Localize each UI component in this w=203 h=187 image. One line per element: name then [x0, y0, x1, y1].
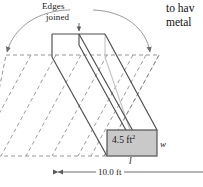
overall-width-dimension-arrow-left — [58, 170, 63, 175]
adjacent-text-line-1: to hav — [166, 2, 194, 14]
figure-vector-graphics — [0, 0, 203, 187]
box-top-edge — [52, 34, 105, 57]
edges-joined-label-line1: Edges — [42, 2, 65, 11]
width-symbol-label: w — [160, 140, 166, 149]
edges-joined-label-line2: joined — [46, 13, 69, 22]
cross-section-area-exponent: 2 — [132, 133, 135, 140]
rolled-metal-sheet-figure: Edges joined 4.5 ft2 w l 10.0 ft to hav … — [0, 0, 203, 187]
adjacent-text-line-2: metal — [166, 16, 192, 28]
length-symbol-label: l — [129, 157, 132, 167]
overall-width-label: 10.0 ft — [96, 168, 124, 177]
cross-section-area-value: 4.5 ft — [112, 135, 132, 145]
roll-arrow-right — [93, 10, 150, 52]
cross-section-area-label: 4.5 ft2 — [112, 136, 135, 146]
